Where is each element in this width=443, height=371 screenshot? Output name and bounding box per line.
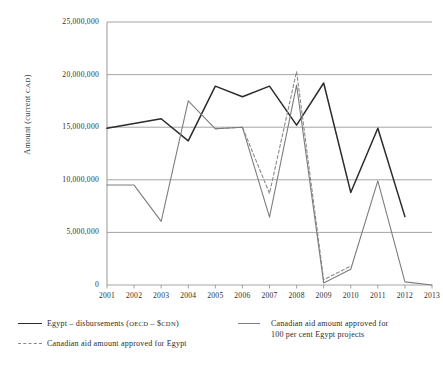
x-tick-label: 2012 (397, 291, 413, 300)
legend-swatch-0 (18, 323, 42, 324)
x-tick-label: 2009 (316, 291, 332, 300)
x-tick-label: 2006 (234, 291, 250, 300)
x-tick-label: 2010 (343, 291, 359, 300)
legend-text: Canadian aid amount approved for Egypt (47, 338, 187, 349)
x-axis-ticks (107, 285, 432, 289)
x-tick-label: 2002 (126, 291, 142, 300)
x-axis-tick-labels: 2001200220032004200520062007200820092010… (0, 291, 443, 309)
x-tick-label: 2013 (424, 291, 440, 300)
legend-label-2: Canadian aid amount approved for100 per … (271, 318, 388, 340)
legend-text-oecd: OECD (129, 320, 148, 327)
legend-text-cdn: CDN (161, 320, 176, 327)
x-tick-label: 2007 (261, 291, 277, 300)
legend-label-1: Canadian aid amount approved for Egypt (47, 338, 187, 349)
data-series-group (107, 71, 432, 285)
legend-swatch-2 (238, 323, 260, 324)
x-tick-label: 2011 (370, 291, 386, 300)
x-tick-label: 2004 (180, 291, 196, 300)
legend-swatch-1 (18, 343, 42, 344)
chart-legend: Egypt – disbursements (OECD – $CDN)Canad… (0, 316, 443, 368)
x-tick-label: 2003 (153, 291, 169, 300)
x-tick-label: 2001 (99, 291, 115, 300)
series-line-2 (107, 85, 432, 285)
legend-text: Egypt – disbursements (OECD – $CDN) (47, 318, 179, 329)
x-tick-label: 2005 (207, 291, 223, 300)
legend-text-line2: 100 per cent Egypt projects (271, 329, 388, 340)
series-line-0 (107, 83, 405, 217)
legend-label-0: Egypt – disbursements (OECD – $CDN) (47, 318, 179, 329)
series-line-1 (215, 71, 350, 279)
x-tick-label: 2008 (288, 291, 304, 300)
legend-text-line1: Canadian aid amount approved for (271, 318, 388, 329)
grid-lines (107, 22, 432, 285)
chart-container: Amount (current CAD) 05,000,00010,000,00… (0, 0, 443, 371)
